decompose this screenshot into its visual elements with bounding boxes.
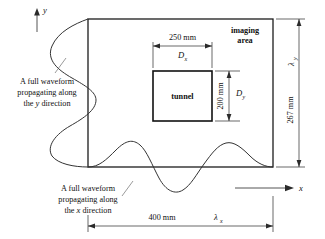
x-wave-line3-post: direction	[80, 206, 111, 215]
area-height-value: 267 mm	[286, 96, 295, 124]
area-width-symbol: λ x	[213, 212, 223, 224]
y-axis-label: y	[42, 5, 47, 15]
svg-text:propagating along: propagating along	[17, 88, 76, 97]
x-wave-leader-line	[122, 181, 133, 196]
tunnel-label: tunnel	[171, 92, 194, 101]
tunnel-height-value: 200 mm	[216, 82, 225, 110]
area-height-dimension	[276, 19, 305, 167]
imaging-area-label-line1: imaging	[231, 26, 260, 35]
svg-text:λ: λ	[213, 212, 218, 222]
tunnel-width-symbol: D x	[177, 50, 188, 62]
svg-text:x: x	[184, 56, 188, 62]
y-wave-line3-post: direction	[39, 99, 70, 108]
svg-text:λ: λ	[286, 62, 296, 67]
y-wave-annotation: A full waveform propagating along the y …	[17, 77, 76, 108]
svg-text:x: x	[219, 218, 223, 224]
svg-text:y: y	[242, 94, 246, 100]
x-axis-label: x	[298, 183, 303, 193]
area-width-value: 400 mm	[148, 213, 176, 222]
tunnel-width-value: 250 mm	[169, 33, 197, 42]
x-axis-arrow	[235, 185, 294, 191]
y-axis-arrow	[34, 8, 40, 32]
svg-text:A full waveform: A full waveform	[61, 184, 116, 193]
svg-text:propagating along: propagating along	[58, 195, 117, 204]
imaging-area-label-line2: area	[237, 36, 252, 45]
tunnel-height-symbol: D y	[235, 88, 246, 100]
svg-text:y: y	[292, 57, 298, 61]
svg-text:A full waveform: A full waveform	[20, 77, 75, 86]
area-height-symbol: λ y	[286, 57, 298, 67]
figure-canvas: y x tunnel imaging area 250 mm D x 200 m…	[0, 0, 325, 239]
y-wave-line3-pre: the	[23, 99, 35, 108]
x-wave-annotation: A full waveform propagating along the x …	[58, 184, 117, 215]
x-wave-line3-pre: the	[64, 206, 76, 215]
svg-text:the y direction: the y direction	[23, 98, 70, 108]
svg-text:the x direction: the x direction	[64, 205, 111, 215]
